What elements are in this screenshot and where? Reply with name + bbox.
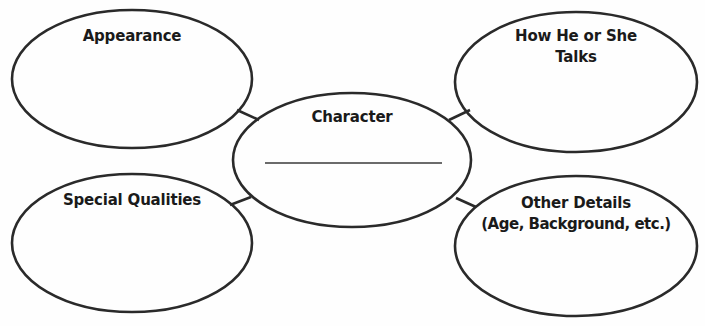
appearance-label: Appearance [32,26,232,47]
character-title: Character [252,107,452,128]
talks-label-line2: Talks [476,47,676,68]
special-qualities-label-line1: Special Qualities [22,190,242,211]
character-label: Character [252,107,452,128]
appearance-label-line1: Appearance [32,26,232,47]
character-web-diagram: Appearance How He or She Talks Character… [0,0,705,326]
talks-label: How He or She Talks [476,26,676,68]
special-qualities-label: Special Qualities [22,190,242,211]
connector-talks [449,110,470,120]
other-details-label: Other Details (Age, Background, etc.) [466,193,686,235]
other-details-label-line2: (Age, Background, etc.) [466,214,686,235]
other-details-label-line1: Other Details [466,193,686,214]
talks-label-line1: How He or She [476,26,676,47]
